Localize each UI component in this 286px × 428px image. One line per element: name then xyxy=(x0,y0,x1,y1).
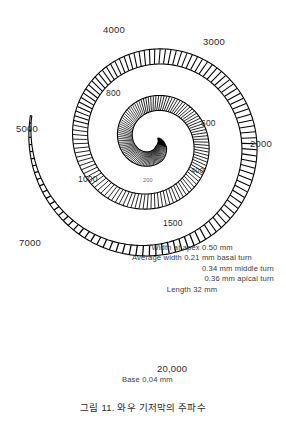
measurement-length: Length 32 mm xyxy=(108,285,276,295)
frequency-label-4000: 4000 xyxy=(103,25,125,35)
frequency-label-2000: 2000 xyxy=(250,139,272,149)
frequency-label-200: 200 xyxy=(143,178,153,184)
measurement-average-width-basal: Average width 0.21 mm basal turn xyxy=(108,253,276,263)
spiral-inner-edge xyxy=(31,64,242,245)
frequency-label-400: 400 xyxy=(191,167,204,175)
spiral-svg xyxy=(0,0,286,385)
figure-container: 4000300020005000700080060040020010001500… xyxy=(0,0,286,428)
measurement-width-at-apex: Width at apex 0.50 mm xyxy=(108,243,276,253)
frequency-label-600: 600 xyxy=(201,119,216,128)
frequency-label-7000: 7000 xyxy=(19,238,41,248)
frequency-label-5000: 5000 xyxy=(16,124,38,134)
spiral-hatch-lines xyxy=(29,49,257,256)
frequency-label-3000: 3000 xyxy=(203,37,225,47)
figure-caption: 그림 11. 와우 기저막의 주파수 xyxy=(0,400,286,414)
measurements-text-block: Width at apex 0.50 mm Average width 0.21… xyxy=(108,243,276,295)
cochlea-spiral-diagram xyxy=(0,0,286,385)
base-width-annotation: Base 0,04 mm xyxy=(122,375,173,384)
measurement-middle-turn: 0.34 mm middle turn xyxy=(108,264,276,274)
measurement-apical-turn: 0.36 mm apical turn xyxy=(108,274,276,284)
frequency-label-20000: 20,000 xyxy=(157,364,187,374)
frequency-label-800: 800 xyxy=(106,89,121,98)
frequency-label-1000: 1000 xyxy=(78,175,98,184)
frequency-label-1500: 1500 xyxy=(163,219,183,228)
